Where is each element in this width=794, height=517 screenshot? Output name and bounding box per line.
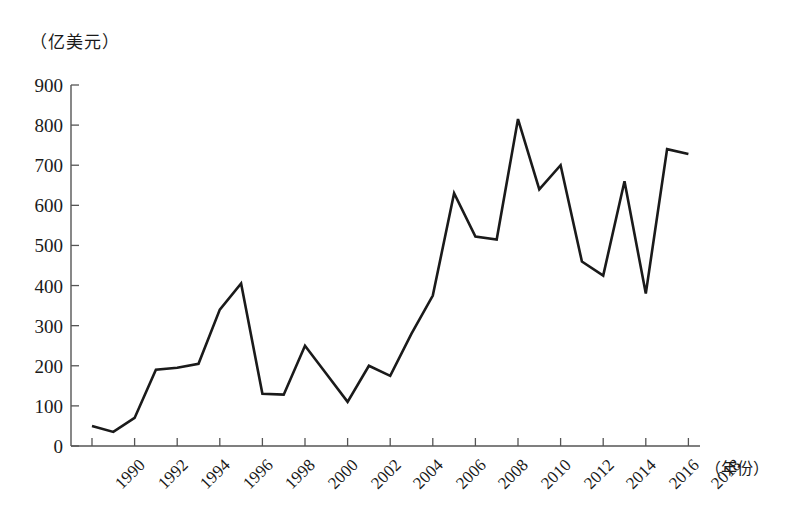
y-axis-ticks bbox=[71, 85, 79, 446]
x-axis-ticks bbox=[92, 438, 688, 446]
chart-figure: （亿美元） （年份） 0100200300400500600700800900 … bbox=[0, 0, 794, 517]
chart-canvas bbox=[0, 0, 794, 517]
data-line-series bbox=[92, 119, 688, 432]
